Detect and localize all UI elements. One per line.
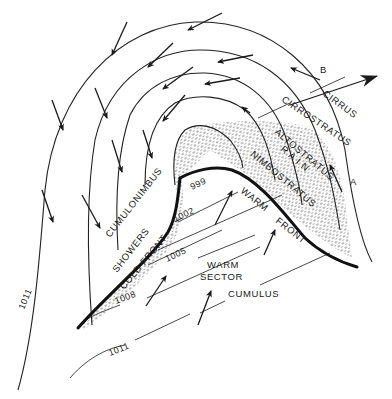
label-cumulus: CUMULUS	[228, 288, 279, 299]
cyclone-diagram: B CIRRUS CIRROSTRATUS ALTOSTRATUS R A I …	[0, 0, 392, 399]
isobar-999: 999	[189, 176, 208, 192]
label-point-a: A	[350, 176, 357, 187]
label-cumulonimbus: CUMULONIMBUS	[103, 165, 164, 239]
label-point-b: B	[320, 64, 327, 75]
label-warm-sector-1: WARM	[207, 259, 239, 270]
isobar-1011-bottom: 1011	[107, 341, 131, 358]
label-cirrus: CIRRUS	[321, 88, 360, 120]
isobar-1011-left: 1011	[17, 287, 34, 311]
label-warm-sector-2: SECTOR	[200, 271, 243, 282]
